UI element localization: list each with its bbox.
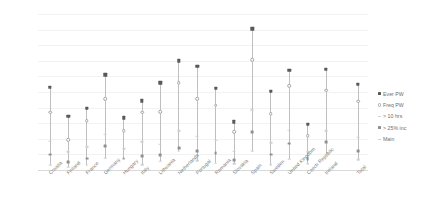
plot-area: 02468101214161820 — [38, 14, 368, 170]
data-point-freq-pw[interactable] — [324, 89, 328, 93]
data-point-freq-pw[interactable] — [177, 81, 181, 85]
legend-item-label: Ever PW — [383, 91, 404, 97]
legend-item[interactable]: Ever PW — [376, 88, 436, 99]
chart-column[interactable] — [190, 14, 204, 170]
data-point-freq-pw[interactable] — [287, 84, 291, 88]
data-point-10-hrs[interactable] — [159, 143, 162, 145]
data-point-25-inc[interactable] — [251, 130, 254, 133]
data-point-main[interactable] — [141, 164, 144, 165]
chart-column[interactable] — [153, 14, 167, 170]
chart-column[interactable] — [135, 14, 149, 170]
chart-column[interactable] — [172, 14, 186, 170]
data-point-ever-pw[interactable] — [159, 81, 162, 84]
data-point-25-inc[interactable] — [233, 158, 236, 161]
data-point-freq-pw[interactable] — [140, 110, 144, 114]
data-point-main[interactable] — [214, 162, 217, 163]
data-point-main[interactable] — [159, 161, 162, 162]
data-point-25-inc[interactable] — [85, 157, 88, 160]
data-point-freq-pw[interactable] — [306, 134, 310, 138]
chart-column[interactable] — [61, 14, 75, 170]
chart-column[interactable] — [245, 14, 259, 170]
data-point-main[interactable] — [288, 158, 291, 159]
legend-item[interactable]: Main — [376, 134, 436, 145]
data-point-freq-pw[interactable] — [356, 100, 360, 104]
data-point-ever-pw[interactable] — [48, 86, 51, 89]
data-point-ever-pw[interactable] — [269, 90, 272, 93]
data-point-ever-pw[interactable] — [324, 68, 327, 71]
data-point-10-hrs[interactable] — [357, 136, 360, 138]
data-point-main[interactable] — [104, 158, 107, 159]
data-point-ever-pw[interactable] — [177, 59, 180, 62]
data-point-ever-pw[interactable] — [287, 68, 290, 71]
data-point-25-inc[interactable] — [104, 144, 107, 147]
data-point-25-inc[interactable] — [141, 155, 144, 158]
data-point-freq-pw[interactable] — [214, 103, 218, 107]
data-point-freq-pw[interactable] — [195, 97, 199, 101]
chart-column[interactable] — [117, 14, 131, 170]
legend-item[interactable]: > 25% inc — [376, 122, 436, 133]
data-point-10-hrs[interactable] — [85, 146, 88, 148]
data-point-freq-pw[interactable] — [159, 110, 163, 114]
data-point-main[interactable] — [122, 158, 125, 159]
data-point-freq-pw[interactable] — [251, 58, 255, 62]
chart-column[interactable] — [80, 14, 94, 170]
data-point-main[interactable] — [251, 151, 254, 152]
data-point-25-inc[interactable] — [159, 154, 162, 157]
data-point-10-hrs[interactable] — [122, 148, 125, 150]
data-point-freq-pw[interactable] — [122, 129, 126, 133]
data-point-10-hrs[interactable] — [196, 136, 199, 138]
data-point-ever-pw[interactable] — [85, 107, 88, 110]
chart-column[interactable] — [209, 14, 223, 170]
data-point-25-inc[interactable] — [357, 149, 360, 152]
legend-marker-icon — [376, 103, 383, 107]
chart-column[interactable] — [264, 14, 278, 170]
data-point-main[interactable] — [178, 151, 181, 152]
chart-column[interactable] — [98, 14, 112, 170]
data-point-25-inc[interactable] — [177, 147, 180, 150]
data-point-freq-pw[interactable] — [67, 138, 71, 142]
data-point-10-hrs[interactable] — [288, 129, 291, 131]
data-point-10-hrs[interactable] — [177, 130, 180, 132]
data-point-ever-pw[interactable] — [356, 83, 359, 86]
data-point-main[interactable] — [86, 165, 89, 166]
data-point-10-hrs[interactable] — [269, 142, 272, 144]
chart-column[interactable] — [43, 14, 57, 170]
data-point-10-hrs[interactable] — [214, 140, 217, 142]
data-point-25-inc[interactable] — [49, 153, 52, 156]
data-point-freq-pw[interactable] — [269, 112, 273, 116]
data-point-freq-pw[interactable] — [103, 97, 107, 101]
chart-column[interactable] — [282, 14, 296, 170]
data-point-main[interactable] — [306, 163, 309, 164]
data-point-ever-pw[interactable] — [232, 120, 235, 123]
legend-item[interactable]: Freq PW — [376, 99, 436, 110]
data-point-25-inc[interactable] — [214, 151, 217, 154]
data-point-ever-pw[interactable] — [67, 114, 70, 117]
data-point-10-hrs[interactable] — [104, 133, 107, 135]
data-point-ever-pw[interactable] — [103, 73, 106, 76]
data-point-ever-pw[interactable] — [195, 65, 198, 68]
data-point-25-inc[interactable] — [325, 141, 328, 144]
data-point-ever-pw[interactable] — [251, 27, 254, 30]
data-point-freq-pw[interactable] — [48, 110, 52, 114]
data-point-ever-pw[interactable] — [122, 116, 125, 119]
chart-column[interactable] — [227, 14, 241, 170]
data-point-10-hrs[interactable] — [49, 140, 52, 142]
data-point-25-inc[interactable] — [67, 161, 70, 164]
data-point-main[interactable] — [233, 163, 236, 164]
data-point-10-hrs[interactable] — [325, 130, 328, 132]
data-point-main[interactable] — [270, 164, 273, 165]
data-point-25-inc[interactable] — [288, 142, 291, 145]
data-point-10-hrs[interactable] — [67, 151, 70, 153]
data-point-10-hrs[interactable] — [233, 150, 236, 152]
data-point-freq-pw[interactable] — [85, 119, 89, 123]
data-point-ever-pw[interactable] — [214, 86, 217, 89]
data-point-ever-pw[interactable] — [306, 122, 309, 125]
data-point-10-hrs[interactable] — [141, 141, 144, 143]
data-point-freq-pw[interactable] — [232, 130, 236, 134]
data-point-25-inc[interactable] — [269, 153, 272, 156]
data-point-ever-pw[interactable] — [140, 99, 143, 102]
legend-item[interactable]: > 10 hrs — [376, 111, 436, 122]
data-point-10-hrs[interactable] — [251, 109, 254, 111]
data-point-main[interactable] — [357, 159, 360, 160]
chart-column[interactable] — [351, 14, 365, 170]
